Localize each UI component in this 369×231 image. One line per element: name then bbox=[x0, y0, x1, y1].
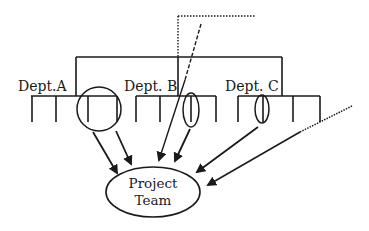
arrow-dept-a-1 bbox=[93, 132, 117, 173]
dept-c-selection-ellipse bbox=[255, 95, 269, 123]
external-right-arrow bbox=[208, 106, 352, 185]
dept-a-label: Dept.A bbox=[18, 79, 67, 93]
project-team-label: Project Team bbox=[113, 175, 193, 209]
dept-a-branch bbox=[31, 96, 117, 122]
arrow-dept-c bbox=[197, 127, 258, 172]
arrow-dept-b bbox=[175, 129, 190, 161]
project-team-line1: Project bbox=[113, 175, 193, 192]
diagram-canvas: Dept.A Dept. B Dept. C Project Team bbox=[0, 0, 369, 231]
dept-b-label: Dept. B bbox=[124, 79, 177, 93]
arrow-dept-a-2 bbox=[116, 131, 131, 164]
dept-c-branch bbox=[238, 96, 320, 122]
arrows-to-project-team bbox=[93, 127, 258, 173]
project-team-line2: Team bbox=[113, 192, 193, 209]
external-dotted-link bbox=[178, 16, 256, 57]
dept-c-label: Dept. C bbox=[225, 79, 279, 93]
dept-a-selection-circle bbox=[77, 87, 121, 131]
